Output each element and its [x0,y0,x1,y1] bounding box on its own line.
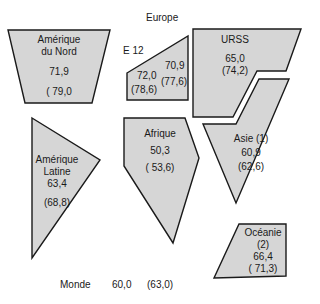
label-e12-projection: (78,6) [131,84,157,96]
region-projection: ( 79,0 [34,86,84,98]
region-name: Amérique [34,34,84,46]
world-projection: (63,0) [147,279,173,291]
region-projection: ( 53,6) [135,162,185,174]
region-name-2: Latine [32,166,82,178]
label-e12-value: 72,0 [137,70,156,82]
label-oceanie: Océanie (2) 66,4 ( 71,3) [238,227,288,275]
label-e12-name: E 12 [123,45,144,57]
region-value: 50,3 [135,145,185,157]
region-value: 66,4 [238,251,288,263]
region-projection: (74,2) [210,65,260,77]
region-projection: ( 71,3) [238,263,288,275]
label-amerique-latine: Amérique Latine 63,4 (68,8) [32,154,82,209]
region-name-2: du Nord [34,46,84,58]
region-value: 60,9 [226,147,276,159]
label-urss: URSS 65,0 (74,2) [210,34,260,77]
region-projection: (62,6) [226,161,276,173]
region-name: Amérique [32,154,82,166]
world-label: Monde [60,279,91,291]
label-europe-other-projection: (77,6) [161,76,187,88]
region-projection: (68,8) [32,197,82,209]
label-afrique: Afrique 50,3 ( 53,6) [135,128,185,174]
europe-title: Europe [146,12,178,24]
region-name-2: (2) [238,239,288,251]
region-name: URSS [210,34,260,46]
label-amerique-du-nord: Amérique du Nord 71,9 ( 79,0 [34,34,84,98]
region-name: Océanie [238,227,288,239]
label-asie: Asie (1) 60,9 (62,6) [226,133,276,173]
region-value: 63,4 [32,178,82,190]
region-value: 65,0 [210,53,260,65]
region-value: 71,9 [34,66,84,78]
label-europe-other-value: 70,9 [165,60,184,72]
world-value: 60,0 [112,279,131,291]
region-name: Afrique [135,128,185,140]
region-name: Asie (1) [226,133,276,145]
